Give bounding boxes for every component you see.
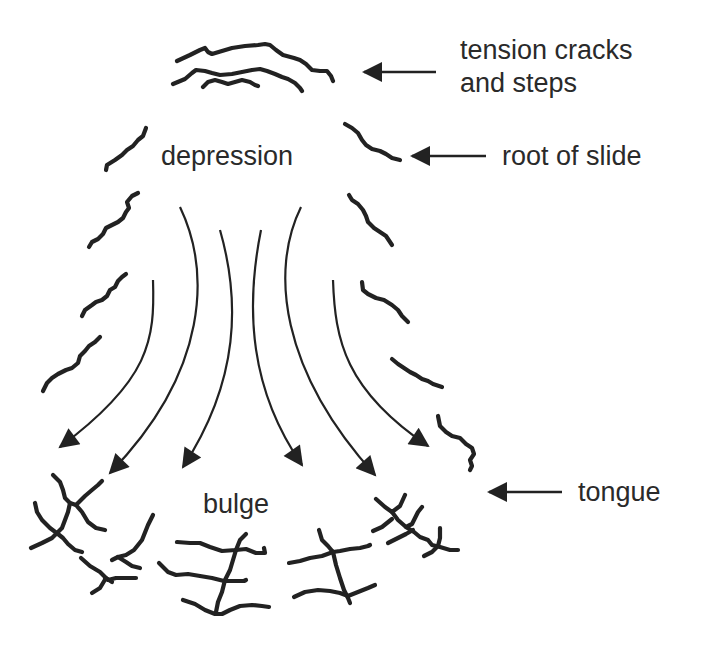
label-root-of-slide: root of slide [502,140,642,172]
tension-cracks [173,44,333,91]
label-tension-cracks: tension cracks [460,34,633,66]
label-depression: depression [161,140,293,172]
landslide-diagram: tension cracks and steps root of slide d… [0,0,712,653]
diagram-canvas [0,0,712,653]
flow-arrows [60,207,428,475]
pointer-arrows [364,72,562,492]
right-scarp-cracks [345,124,474,470]
label-bulge: bulge [203,488,269,520]
left-scarp-cracks [43,128,146,391]
label-tongue: tongue [578,476,661,508]
label-and-steps: and steps [460,67,577,99]
